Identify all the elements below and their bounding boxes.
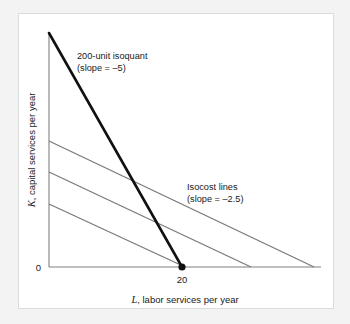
figure-card: 0 20 200-unit isoquant (slope = –5) Isoc… (18, 13, 334, 309)
figure-root: 0 20 200-unit isoquant (slope = –5) Isoc… (0, 0, 350, 324)
x-tick-label-20: 20 (177, 274, 188, 285)
x-axis-title: L, labor services per year (130, 294, 238, 305)
isoquant-annotation-line2: (slope = –5) (77, 63, 126, 73)
isocost-annotation: Isocost lines (slope = –2.5) (187, 182, 243, 204)
isoquant-annotation-line1: 200-unit isoquant (77, 51, 148, 61)
isoquant-endpoint-marker (178, 263, 185, 270)
y-axis-title: K, capital services per year (26, 93, 37, 209)
isocost-annotation-line2: (slope = –2.5) (187, 194, 243, 204)
isocost-annotation-line1: Isocost lines (187, 182, 238, 192)
y-axis-title-text: , capital services per year (26, 93, 37, 201)
svg-text:L, labor services per year: L, labor services per year (130, 294, 238, 305)
isoquant-annotation: 200-unit isoquant (slope = –5) (77, 51, 148, 73)
isocost-lines-group (49, 141, 314, 267)
isocost-line-highest (49, 141, 314, 267)
svg-text:K, capital services per year: K, capital services per year (26, 93, 37, 209)
origin-label: 0 (36, 262, 41, 273)
isoquant-isocost-chart: 0 20 200-unit isoquant (slope = –5) Isoc… (19, 14, 335, 310)
x-axis-title-text: , labor services per year (137, 294, 238, 305)
